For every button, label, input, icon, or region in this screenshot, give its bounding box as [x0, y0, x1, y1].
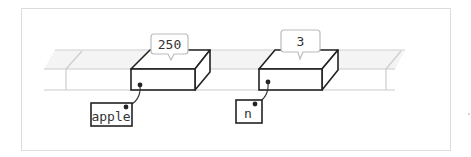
- value-text: 250: [158, 37, 181, 52]
- variable-tag-apple: apple: [91, 85, 140, 126]
- variable-shelf-diagram: 250 apple 3 n: [0, 0, 471, 157]
- variable-name: n: [244, 106, 252, 121]
- value-text: 3: [297, 34, 305, 49]
- tag-anchor-dot: [253, 102, 258, 107]
- value-box-n: [259, 50, 338, 90]
- shelf: [44, 50, 405, 90]
- stray-mark: [468, 113, 470, 115]
- variable-name: apple: [91, 109, 130, 124]
